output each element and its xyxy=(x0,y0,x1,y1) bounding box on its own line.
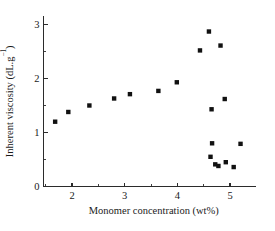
data-point-marker xyxy=(216,164,220,168)
data-point-marker xyxy=(66,110,70,114)
data-point-marker xyxy=(198,48,202,52)
y-tick-label: 2 xyxy=(34,73,39,84)
chart-figure: 01232345 Monomer concentration (wt%)Inhe… xyxy=(0,0,275,231)
x-tick-label: 2 xyxy=(69,190,74,201)
x-axis-title: Monomer concentration (wt%) xyxy=(89,205,220,217)
tick-labels-group: 01232345 xyxy=(34,19,232,200)
data-point-marker xyxy=(224,160,228,164)
data-point-marker xyxy=(87,103,91,107)
x-tick-label: 4 xyxy=(175,190,181,201)
scatter-plot-svg: 01232345 Monomer concentration (wt%)Inhe… xyxy=(0,0,275,231)
data-point-marker xyxy=(210,141,214,145)
y-axis-title: Inherent viscosity (dL.g−1) xyxy=(0,45,16,157)
data-point-marker xyxy=(209,107,213,111)
y-tick-label: 3 xyxy=(34,19,39,30)
data-point-marker xyxy=(112,96,116,100)
data-point-marker xyxy=(208,155,212,159)
data-point-marker xyxy=(53,120,57,124)
y-tick-label: 0 xyxy=(34,181,39,192)
x-tick-label: 5 xyxy=(227,190,232,201)
data-point-marker xyxy=(175,80,179,84)
data-points-group xyxy=(53,29,243,169)
x-tick-label: 3 xyxy=(122,190,127,201)
data-point-marker xyxy=(207,29,211,33)
data-point-marker xyxy=(223,97,227,101)
data-point-marker xyxy=(238,142,242,146)
data-point-marker xyxy=(218,43,222,47)
y-tick-label: 1 xyxy=(34,127,39,138)
data-point-marker xyxy=(128,92,132,96)
data-point-marker xyxy=(156,89,160,93)
data-point-marker xyxy=(231,165,235,169)
axis-titles-group: Monomer concentration (wt%)Inherent visc… xyxy=(0,45,219,217)
